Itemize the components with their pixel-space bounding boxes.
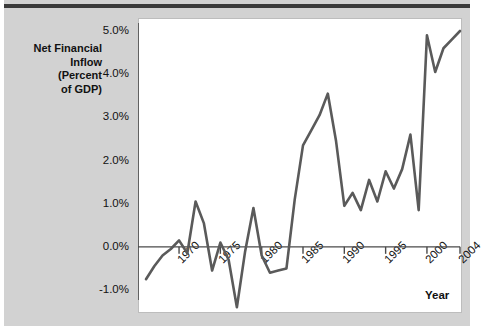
- y-axis-tick-label: 2.0%: [83, 154, 129, 166]
- y-axis-tick-label: 3.0%: [83, 110, 129, 122]
- figure-left-margin: [0, 0, 4, 332]
- figure-top-rule: [4, 4, 471, 8]
- figure-right-margin: [470, 0, 475, 332]
- chart-series-group: [146, 31, 460, 307]
- y-axis-tick-label: 1.0%: [83, 197, 129, 209]
- y-axis-tick-label: 0.0%: [83, 240, 129, 252]
- chart-axes: [138, 23, 460, 300]
- y-axis-tick-label: 4.0%: [83, 67, 129, 79]
- y-axis-tick-label: 5.0%: [83, 24, 129, 36]
- y-axis-title-line-1: Net Financial: [6, 42, 102, 56]
- chart-canvas: [138, 18, 462, 313]
- y-axis-title-line-4: of GDP): [6, 83, 102, 97]
- figure-bottom-margin: [0, 326, 475, 332]
- y-axis-tick-label: -1.0%: [83, 283, 129, 295]
